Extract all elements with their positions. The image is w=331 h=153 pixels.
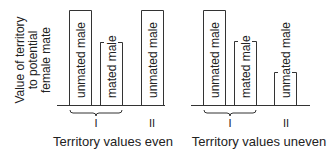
group-label-I: I	[228, 117, 231, 129]
chart-uneven-text: unmated male mated male unmated male I I…	[192, 22, 326, 149]
group-brace	[204, 110, 256, 116]
svg-text:unmated male: unmated male	[279, 22, 293, 98]
svg-text:unmated male: unmated male	[74, 22, 88, 98]
y-axis-label: Value of territory to potential female m…	[13, 16, 53, 103]
chart-title-uneven: Territory values uneven	[192, 134, 326, 149]
bar-unmated-male-II-left	[275, 73, 279, 106]
svg-text:unmated male: unmated male	[146, 22, 160, 98]
svg-text:mated male: mated male	[105, 35, 119, 98]
chart-even-text: unmated male mated male unmated male I I…	[53, 22, 173, 149]
group-brace	[70, 110, 122, 116]
group-label-II: II	[283, 117, 289, 129]
ylabel-line-2: to potential	[26, 31, 40, 90]
bar-mated-male-I-left	[101, 43, 105, 106]
chart-title-even: Territory values even	[53, 134, 173, 149]
ylabel-line-1: Value of territory	[13, 16, 27, 103]
svg-text:unmated male: unmated male	[208, 22, 222, 98]
ylabel-line-3: female mate	[39, 27, 53, 93]
figure: Value of territory to potential female m…	[0, 0, 331, 153]
svg-text:mated male: mated male	[239, 35, 253, 98]
bar-mated-male-I-left	[235, 42, 239, 106]
group-label-I: I	[94, 117, 97, 129]
group-label-II: II	[149, 117, 155, 129]
